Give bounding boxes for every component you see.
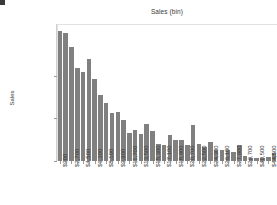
x-tick-mark bbox=[181, 161, 182, 164]
x-tick-mark bbox=[158, 161, 159, 164]
bar bbox=[69, 47, 74, 161]
x-tick-mark bbox=[199, 161, 200, 164]
chart-root: Sales (bin) Sales $0$500,000$1,000,000 $… bbox=[0, 0, 277, 205]
bar bbox=[208, 142, 213, 161]
bar bbox=[75, 68, 80, 161]
x-tick-mark bbox=[66, 161, 67, 164]
bar bbox=[87, 59, 92, 161]
x-tick-mark bbox=[124, 161, 125, 164]
x-tick-mark bbox=[60, 161, 61, 164]
x-tick-mark bbox=[176, 161, 177, 164]
chart-title: Sales (bin) bbox=[57, 8, 277, 15]
x-tick-label: $8,100 bbox=[108, 149, 114, 167]
x-tick-mark bbox=[251, 161, 252, 164]
x-tick-mark bbox=[129, 161, 130, 164]
x-tick-mark bbox=[77, 161, 78, 164]
x-tick-mark bbox=[274, 161, 275, 164]
x-tick-mark bbox=[257, 161, 258, 164]
x-tick-mark bbox=[268, 161, 269, 164]
corner-mark-icon bbox=[0, 0, 5, 5]
x-tick-mark bbox=[228, 161, 229, 164]
x-tick-mark bbox=[141, 161, 142, 164]
x-tick-mark bbox=[222, 161, 223, 164]
x-tick-label: $2,700 bbox=[74, 149, 80, 167]
y-tick-mark bbox=[54, 161, 57, 162]
x-tick-mark bbox=[216, 161, 217, 164]
x-tick-mark bbox=[245, 161, 246, 164]
x-tick-mark bbox=[239, 161, 240, 164]
x-tick-mark bbox=[95, 161, 96, 164]
x-tick-mark bbox=[263, 161, 264, 164]
y-axis-title: Sales bbox=[9, 78, 15, 118]
bar bbox=[81, 72, 86, 161]
bar bbox=[63, 33, 68, 161]
x-tick-mark bbox=[153, 161, 154, 164]
x-tick-mark bbox=[164, 161, 165, 164]
x-tick-mark bbox=[170, 161, 171, 164]
x-tick-label: $4,500 bbox=[85, 149, 91, 167]
x-tick-mark bbox=[135, 161, 136, 164]
bar bbox=[127, 133, 132, 161]
x-tick-label: $6,300 bbox=[97, 149, 103, 167]
x-tick-label: $9,900 bbox=[120, 149, 126, 167]
x-tick-mark bbox=[205, 161, 206, 164]
x-tick-mark bbox=[234, 161, 235, 164]
bar bbox=[58, 31, 63, 161]
plot-area bbox=[57, 24, 277, 161]
x-tick-mark bbox=[89, 161, 90, 164]
x-tick-mark bbox=[193, 161, 194, 164]
x-tick-mark bbox=[210, 161, 211, 164]
x-tick-mark bbox=[100, 161, 101, 164]
x-tick-mark bbox=[118, 161, 119, 164]
x-tick-mark bbox=[71, 161, 72, 164]
x-tick-mark bbox=[147, 161, 148, 164]
x-tick-mark bbox=[83, 161, 84, 164]
x-tick-mark bbox=[112, 161, 113, 164]
